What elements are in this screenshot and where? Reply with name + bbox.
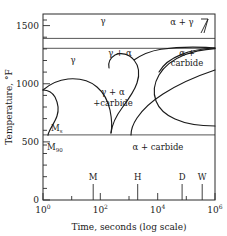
ms-label-base: M	[51, 123, 60, 133]
m90-label-sub: 90	[56, 147, 63, 153]
y-tick-label-0: 0	[33, 195, 39, 205]
quench-label-W: W	[198, 172, 207, 182]
x-tick-label-0-exp: 0	[47, 203, 51, 210]
x-axis-ticks	[43, 193, 215, 200]
ttt-diagram: 0 500 1000 1500 100 102 104	[0, 0, 227, 236]
quench-label-D: D	[179, 172, 186, 182]
x-tick-label-2-base: 10	[93, 205, 105, 215]
quench-label-M: M	[89, 172, 98, 182]
region-label-gamma-top: γ	[100, 16, 105, 26]
x-tick-label-4-base: 10	[150, 205, 162, 215]
ms-label: Ms	[51, 123, 63, 134]
ms-label-sub: s	[60, 128, 63, 134]
x-axis-tick-labels: 100 102 104 106	[35, 203, 222, 215]
leader-line-alpha-gamma	[201, 19, 208, 33]
y-axis-ticks	[43, 20, 50, 200]
x-tick-label-4-exp: 4	[162, 203, 166, 210]
martensite-markers: Ms M90	[43, 123, 63, 153]
x-tick-label-6-base: 10	[207, 205, 219, 215]
m90-label: M90	[47, 142, 63, 153]
alpha-gamma-leader	[201, 19, 208, 33]
x-tick-label-2-group: 102	[93, 203, 108, 215]
x-axis-title: Time, seconds (log scale)	[71, 222, 186, 232]
y-axis-tick-labels: 0 500 1000 1500	[16, 21, 39, 205]
region-label-gamma-alpha-carbide-2: +carbide	[93, 98, 133, 108]
region-label-alpha-carbide-upper-2: carbide	[171, 58, 204, 68]
quench-label-H: H	[134, 172, 141, 182]
x-tick-label-6-group: 106	[207, 203, 222, 215]
x-tick-label-4-group: 104	[150, 203, 165, 215]
x-tick-label-6-exp: 6	[219, 203, 223, 210]
y-axis-title: Temperature, °F	[4, 69, 14, 144]
region-label-gamma-alpha-carbide-1: γ + α	[101, 87, 125, 97]
chart-svg: 0 500 1000 1500 100 102 104	[0, 0, 227, 236]
m90-label-base: M	[47, 142, 56, 152]
region-label-gamma-plus-alpha: γ + α	[108, 48, 132, 58]
region-label-gamma-left: γ	[70, 55, 75, 65]
x-tick-label-2-exp: 2	[104, 203, 108, 210]
y-tick-label-500: 500	[22, 137, 39, 147]
quench-markers: M H D W	[89, 172, 207, 200]
x-tick-label-0-base: 10	[35, 205, 47, 215]
region-label-alpha-plus-gamma: α + γ	[170, 17, 193, 27]
region-label-alpha-carbide-lower: α + carbide	[133, 142, 184, 152]
region-label-alpha-carbide-upper-1: α +	[179, 48, 195, 58]
y-tick-label-1500: 1500	[16, 21, 39, 31]
y-tick-label-1000: 1000	[16, 79, 39, 89]
x-tick-label-0-group: 100	[35, 203, 50, 215]
